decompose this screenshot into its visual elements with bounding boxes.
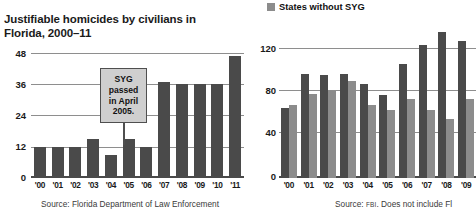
bar-05-with-syg	[379, 95, 387, 178]
xtick-01: '01	[49, 180, 67, 190]
bar-03-with-syg	[340, 74, 348, 178]
bar-00-without-syg	[289, 105, 297, 178]
right-bar-group	[279, 32, 476, 178]
left-ytick-36: 36	[2, 80, 26, 90]
right-source-agency: FBI	[366, 201, 377, 208]
left-chart-title-line2: Florida, 2000–11	[4, 26, 240, 40]
bar-09	[194, 84, 206, 178]
bar-04-without-syg	[368, 105, 376, 178]
bar-slot	[378, 32, 398, 178]
bar-10	[211, 84, 223, 178]
callout-line2: passed	[109, 85, 139, 96]
xtick-00: '00	[279, 180, 299, 190]
bar-11	[229, 56, 241, 178]
bar-03	[87, 139, 99, 178]
right-ytick-0: 0	[250, 172, 276, 182]
xtick-04: '04	[102, 180, 120, 190]
xtick-02: '02	[67, 180, 85, 190]
bar-slot	[456, 32, 476, 178]
legend-label-without-syg: States without SYG	[279, 2, 365, 12]
bar-05-without-syg	[387, 110, 395, 178]
bar-slot	[279, 32, 299, 178]
bar-01-without-syg	[309, 94, 317, 178]
bar-slot	[299, 32, 319, 178]
bar-07	[158, 82, 170, 178]
bar-07-without-syg	[427, 110, 435, 178]
xtick-06: '06	[397, 180, 417, 190]
xtick-08: '08	[437, 180, 457, 190]
bar-slot	[397, 32, 417, 178]
xtick-11: '11	[226, 180, 244, 190]
bar-slot	[437, 32, 457, 178]
left-ytick-12: 12	[2, 142, 26, 152]
callout-line1: SYG	[114, 74, 132, 85]
xtick-04: '04	[358, 180, 378, 190]
bar-04	[105, 155, 117, 178]
xtick-07: '07	[155, 180, 173, 190]
bar-01-with-syg	[301, 74, 309, 178]
xtick-02: '02	[318, 180, 338, 190]
left-chart-title: Justifiable homicides by civilians in Fl…	[4, 12, 240, 40]
bar-00-with-syg	[281, 108, 289, 178]
bar-08	[176, 84, 188, 178]
left-chart-panel: Justifiable homicides by civilians in Fl…	[0, 0, 250, 217]
xtick-03: '03	[338, 180, 358, 190]
bar-slot	[67, 53, 85, 178]
xtick-05: '05	[378, 180, 398, 190]
xtick-09: '09	[191, 180, 209, 190]
right-source-note: Source: FBI. Does not include Fl	[335, 199, 452, 209]
left-chart-title-line1: Justifiable homicides by civilians in	[4, 12, 240, 26]
xtick-07: '07	[417, 180, 437, 190]
left-ytick-48: 48	[2, 49, 26, 59]
right-source-suffix: . Does not include Fl	[376, 199, 452, 209]
bar-01	[52, 147, 64, 178]
right-ytick-40: 40	[250, 128, 276, 138]
bar-02-with-syg	[320, 75, 328, 178]
bar-08-with-syg	[438, 32, 446, 178]
bar-slot	[49, 53, 67, 178]
bar-slot	[209, 53, 227, 178]
right-source-prefix: Source:	[335, 199, 364, 209]
callout-pointer-line	[123, 123, 125, 145]
bar-06-with-syg	[399, 64, 407, 178]
xtick-06: '06	[138, 180, 156, 190]
xtick-03: '03	[84, 180, 102, 190]
right-xaxis-labels: '00'01'02'03'04'05'06'07'08'09	[279, 180, 476, 190]
left-xaxis-labels: '00'01'02'03'04'05'06'07'08'09'10'11	[31, 180, 244, 190]
xtick-09: '09	[456, 180, 476, 190]
bar-07-with-syg	[419, 45, 427, 178]
right-plot-area	[279, 32, 476, 178]
callout-line4: 2005.	[113, 106, 135, 117]
legend-swatch-without-syg	[267, 3, 275, 11]
bar-06-without-syg	[407, 99, 415, 178]
right-ytick-120: 120	[250, 44, 276, 54]
bar-06	[140, 147, 152, 178]
left-source-note: Source: Florida Department of Law Enforc…	[41, 199, 219, 209]
bar-slot	[191, 53, 209, 178]
bar-slot	[226, 53, 244, 178]
bar-08-without-syg	[446, 119, 454, 178]
bar-slot	[173, 53, 191, 178]
xtick-00: '00	[31, 180, 49, 190]
bar-09-with-syg	[458, 41, 466, 178]
left-ytick-0: 0	[2, 173, 26, 183]
xtick-08: '08	[173, 180, 191, 190]
xtick-05: '05	[120, 180, 138, 190]
bar-02	[69, 147, 81, 178]
bar-09-without-syg	[466, 99, 474, 178]
xtick-10: '10	[209, 180, 227, 190]
bar-04-with-syg	[360, 84, 368, 178]
bar-03-without-syg	[348, 81, 356, 178]
callout-line3: in April	[109, 96, 138, 107]
syg-callout-box: SYG passed in April 2005.	[100, 68, 147, 123]
legend-item-without-syg: States without SYG	[267, 2, 365, 12]
xtick-01: '01	[299, 180, 319, 190]
bar-02-without-syg	[328, 91, 336, 178]
bar-slot	[358, 32, 378, 178]
bar-slot	[417, 32, 437, 178]
bar-slot	[155, 53, 173, 178]
left-ytick-24: 24	[2, 111, 26, 121]
bar-slot	[318, 32, 338, 178]
bar-00	[34, 147, 46, 178]
